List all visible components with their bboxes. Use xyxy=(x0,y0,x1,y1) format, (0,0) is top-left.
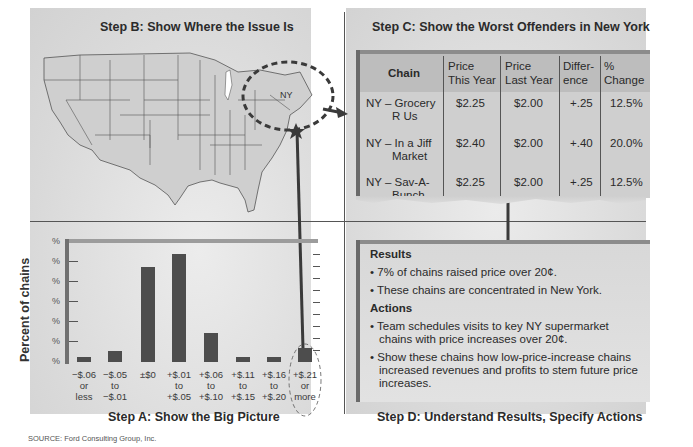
header-price-this-year-1: Price xyxy=(448,60,474,73)
ny-label: NY xyxy=(280,90,293,100)
row3-chain-1: NY – Sav-A- xyxy=(366,176,430,189)
header-difference-2: ence xyxy=(563,74,588,87)
row3-this-year: $2.25 xyxy=(456,176,485,189)
x-label-4: +$.01to+$.05 xyxy=(162,369,196,402)
actions-heading: Actions xyxy=(370,302,412,314)
y-tick-label: % xyxy=(52,296,60,306)
bar-21-or-more xyxy=(298,348,312,362)
row3-pct-change: 12.5% xyxy=(610,176,643,189)
row1-difference: +.25 xyxy=(570,97,593,110)
row2-last-year: $2.00 xyxy=(514,137,543,150)
step-d-title: Step D: Understand Results, Specify Acti… xyxy=(377,410,643,424)
y-tick-label: % xyxy=(52,276,60,286)
offenders-table: Chain Price This Year Price Last Year Di… xyxy=(356,50,650,198)
row1-chain-2: R Us xyxy=(392,110,418,123)
bar-11-to-15 xyxy=(236,357,250,362)
header-price-last-year-2: Last Year xyxy=(505,74,553,87)
row2-pct-change: 20.0% xyxy=(610,137,643,150)
bar-neg05-to-neg01 xyxy=(108,351,122,362)
bar-neg06-or-less xyxy=(77,357,91,362)
x-label-7: +$.16to+$.20 xyxy=(257,369,291,402)
row1-last-year: $2.00 xyxy=(514,97,543,110)
y-tick-label: % xyxy=(52,236,60,246)
header-pct-change-2: Change xyxy=(604,74,644,87)
results-heading: Results xyxy=(370,248,412,260)
y-tick-label: % xyxy=(52,316,60,326)
y-tick-label: % xyxy=(52,356,60,366)
row1-chain-1: NY – Grocery xyxy=(366,97,435,110)
result-item-1: • 7% of chains raised price over 20¢. xyxy=(370,266,645,279)
x-label-1: −$.06orless xyxy=(67,369,101,402)
source-note: SOURCE: Ford Consulting Group, Inc. xyxy=(28,434,156,443)
header-pct-change-1: % xyxy=(604,60,614,73)
chart-top-wall xyxy=(65,239,318,243)
header-price-last-year-1: Price xyxy=(505,60,531,73)
bar-01-to-05 xyxy=(172,254,186,362)
x-label-8: +$.21ormore xyxy=(288,369,322,402)
results-box: Results • 7% of chains raised price over… xyxy=(356,240,650,402)
y-tick-label: % xyxy=(52,256,60,266)
y-tick-label: % xyxy=(52,336,60,346)
step-a-title: Step A: Show the Big Picture xyxy=(108,410,280,424)
header-price-this-year-2: This Year xyxy=(448,74,496,87)
header-chain: Chain xyxy=(388,67,420,80)
row2-this-year: $2.40 xyxy=(456,137,485,150)
result-item-2: • These chains are concentrated in New Y… xyxy=(370,284,645,297)
row1-pct-change: 12.5% xyxy=(610,97,643,110)
x-label-3: ±$0 xyxy=(131,369,165,380)
row2-chain-2: Market xyxy=(392,150,427,163)
row1-this-year: $2.25 xyxy=(456,97,485,110)
x-label-2: −$.05to−$.01 xyxy=(98,369,132,402)
row3-difference: +.25 xyxy=(570,176,593,189)
bar-zero xyxy=(141,267,155,362)
bar-16-to-20 xyxy=(267,357,281,362)
row2-difference: +.40 xyxy=(570,137,593,150)
action-item-1: • Team schedules visits to key NY superm… xyxy=(370,320,629,346)
arrow-head-right-icon xyxy=(336,107,348,118)
header-difference-1: Differ- xyxy=(563,60,594,73)
x-label-6: +$.11to+$.15 xyxy=(226,369,260,402)
y-axis-label: Percent of chains xyxy=(18,258,32,362)
action-item-2: • Show these chains how low-price-increa… xyxy=(370,351,654,390)
row3-last-year: $2.00 xyxy=(514,176,543,189)
x-label-5: +$.06to+$.10 xyxy=(194,369,228,402)
row2-chain-1: NY – In a Jiff xyxy=(366,137,431,150)
bar-06-to-10 xyxy=(204,333,218,362)
